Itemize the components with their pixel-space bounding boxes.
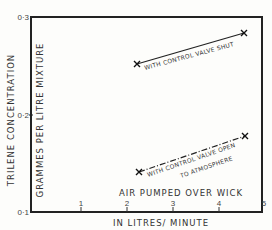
y-axis-label-outer: TRILENE CONCENTRATION [6,54,16,187]
y-tick-0.2: 0·2 [17,111,29,120]
x-tick-4: 4 [217,199,222,208]
x-axis-label-line2: IN LITRES/ MINUTE [113,218,209,228]
x-marker-icon [136,169,142,175]
x-axis-label-line1: AIR PUMPED OVER WICK [119,188,243,198]
y-axis-label-inner: GRAMMES PER LITRE MIXTURE [35,43,45,198]
annotation-valve-shut: WITH CONTROL VALVE SHUT [143,40,234,71]
x-tick-1: 1 [79,199,84,208]
y-tick-0.1: 0·1 [17,208,29,217]
y-tick-0.3: 0·3 [17,13,29,22]
x-tick-2: 2 [125,199,130,208]
chart-canvas: 0·3 0·2 0·1 1 2 3 4 5 AIR PUMPED OVER WI… [0,0,272,230]
x-marker-icon [242,133,248,139]
x-tick-5: 5 [262,199,267,208]
x-tick-3: 3 [171,199,176,208]
